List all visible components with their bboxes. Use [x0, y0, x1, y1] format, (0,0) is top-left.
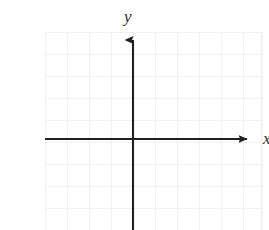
- plot-area: y x: [0, 0, 269, 230]
- y-axis-label: y: [124, 8, 132, 25]
- coordinate-grid-figure: y x: [0, 0, 269, 230]
- axes: [0, 0, 269, 230]
- x-axis-label: x: [263, 130, 269, 147]
